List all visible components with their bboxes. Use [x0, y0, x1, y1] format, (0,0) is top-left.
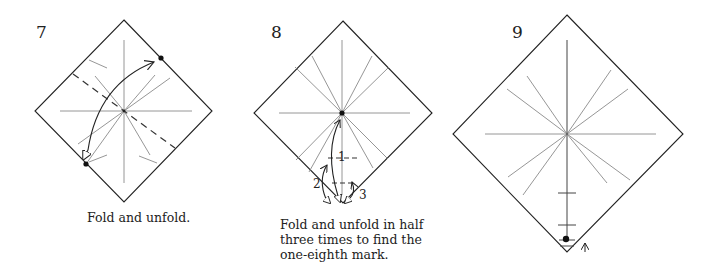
fold-label-3: 3 [359, 188, 367, 202]
center-dot [123, 110, 126, 113]
reference-dot-bottom [83, 161, 88, 166]
step-9-diagram [453, 15, 683, 252]
crease-lines [60, 40, 192, 183]
one-eighth-dot [563, 236, 569, 242]
crease-lines [279, 40, 410, 195]
crease-lines [485, 70, 656, 195]
diagram-canvas: 7 Fold and unfold. 8 Fold and unfold in … [0, 0, 721, 264]
step-7-diagram [35, 20, 212, 202]
center-dot [339, 110, 344, 115]
fold-unfold-arrow [88, 62, 154, 150]
fold-label-1: 1 [338, 150, 346, 164]
step-8-diagram [254, 21, 432, 203]
fold-label-2: 2 [313, 177, 321, 191]
diagrams-svg: 1 2 3 [0, 0, 721, 264]
reference-dot-top [158, 55, 163, 60]
